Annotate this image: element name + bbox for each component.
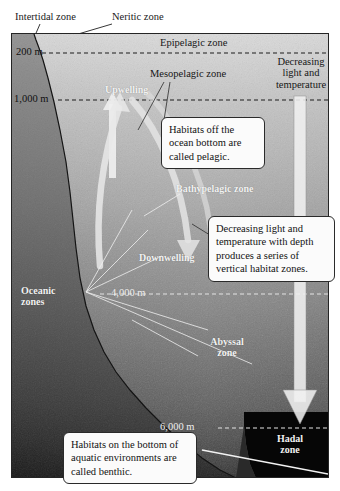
- abyssal-zone-line1: Abyssal: [210, 336, 243, 347]
- upwelling-label: Upwelling: [105, 85, 148, 96]
- decreasing-light-line1: Decreasing: [277, 56, 324, 67]
- oceanic-zones-label: Oceanic zones: [21, 286, 83, 308]
- hadal-zone-line1: Hadal: [277, 433, 303, 444]
- callout-vertical-zones: Decreasing light and temperature with de…: [208, 216, 335, 282]
- hadal-zone-line2: zone: [280, 444, 299, 455]
- depth-label-4000m: 4,000 m: [111, 287, 145, 298]
- oceanic-zones-line2: zones: [21, 296, 44, 307]
- depth-label-1000m: 1,000 m: [14, 93, 48, 104]
- abyssal-zone-line2: zone: [217, 347, 236, 358]
- decreasing-light-label: Decreasing light and temperature: [264, 56, 329, 90]
- ocean-zones-figure: Intertidal zone Neritic zone: [0, 0, 340, 491]
- depth-label-200m: 200 m: [16, 46, 43, 57]
- decreasing-light-line2: light and: [282, 67, 319, 78]
- epipelagic-zone-label: Epipelagic zone: [160, 37, 227, 48]
- mesopelagic-zone-label: Mesopelagic zone: [150, 68, 226, 79]
- oceanic-zones-line1: Oceanic: [21, 285, 55, 296]
- downwelling-label: Downwelling: [139, 253, 195, 264]
- callout-benthic: Habitats on the bottom of aquatic enviro…: [63, 432, 197, 484]
- abyssal-zone-label: Abyssal zone: [198, 337, 256, 359]
- hadal-zone-label: Hadal zone: [264, 434, 316, 456]
- bathypelagic-zone-label: Bathypelagic zone: [176, 184, 254, 195]
- callout-pelagic: Habitats off the ocean bottom are called…: [161, 117, 265, 169]
- depth-label-6000m: 6,000 m: [160, 421, 194, 432]
- decreasing-light-line3: temperature: [276, 79, 326, 90]
